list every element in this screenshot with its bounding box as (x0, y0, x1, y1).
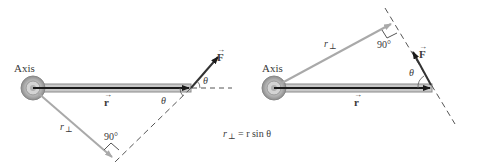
line-of-action-dashed (115, 88, 191, 162)
svg-text:→: → (419, 42, 427, 51)
right-angle-label: 90° (104, 131, 118, 142)
theta-label: θ (409, 67, 414, 78)
r-label: r → (104, 90, 112, 108)
axis-label: Axis (262, 62, 283, 74)
svg-text:→: → (217, 45, 225, 54)
svg-text:⊥: ⊥ (329, 42, 337, 51)
svg-text:⊥: ⊥ (65, 125, 73, 134)
r-perp-label: r ⊥ (60, 121, 73, 134)
r-perp-arrow (38, 93, 112, 157)
svg-text:r: r (60, 121, 64, 132)
svg-text:r: r (324, 38, 328, 49)
torque-diagram: Axis r → F → θ θ r ⊥ 90° A (0, 0, 477, 168)
svg-text:⊥: ⊥ (228, 132, 236, 141)
svg-text:= r sin θ: = r sin θ (238, 128, 271, 139)
formula: r ⊥ = r sin θ (223, 128, 271, 141)
left-diagram: Axis r → F → θ θ r ⊥ 90° (14, 45, 232, 162)
right-angle-marker (382, 30, 397, 38)
svg-text:→: → (104, 90, 112, 99)
r-perp-label: r ⊥ (324, 38, 337, 51)
r-label: r → (354, 90, 362, 108)
theta-upper-label: θ (203, 75, 208, 86)
svg-text:r: r (223, 128, 227, 139)
axis-label: Axis (14, 62, 35, 74)
theta-lower-label: θ (161, 95, 166, 106)
right-angle-label: 90° (377, 39, 391, 50)
right-diagram: Axis r → F → θ r ⊥ 90° (262, 8, 455, 124)
f-label: F → (217, 45, 225, 63)
svg-text:→: → (354, 90, 362, 99)
right-angle-marker (104, 143, 119, 150)
r-perp-arrow (280, 24, 391, 84)
f-label: F → (419, 42, 427, 60)
